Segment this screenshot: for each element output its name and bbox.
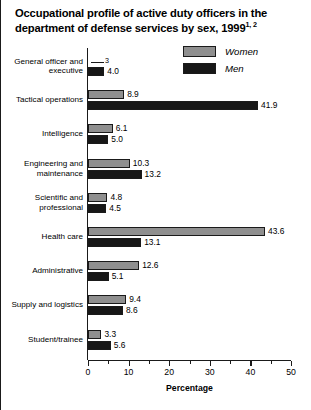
- bar-women: [88, 261, 139, 270]
- bar-men: [88, 306, 123, 315]
- x-axis-tick-label: 40: [246, 367, 256, 377]
- bar-value-label-women: 4.8: [110, 193, 122, 202]
- bar-value-label-men: 4.0: [107, 67, 119, 76]
- x-axis-tick-label: 50: [286, 367, 296, 377]
- x-axis-minor-tick: [230, 361, 231, 364]
- bar-value-label-women: 9.4: [129, 295, 141, 304]
- bar-value-label-men: 5.0: [111, 135, 123, 144]
- bar-value-label-men: 5.1: [112, 272, 124, 281]
- bar-women: [88, 295, 126, 304]
- bar-men: [88, 272, 109, 281]
- bar-value-label-women: 6.1: [116, 124, 128, 133]
- x-axis-minor-tick: [190, 361, 191, 364]
- chart-title-footnote-markers: 1, 2: [245, 20, 256, 29]
- bar-value-label-women: 43.6: [268, 227, 284, 236]
- bar-men: [88, 204, 106, 213]
- bar-value-label-men: 4.5: [109, 204, 121, 213]
- suppressed-footnote: 3: [105, 56, 109, 65]
- x-axis-tick-label: 30: [205, 367, 215, 377]
- bar-men: [88, 135, 108, 144]
- bar-women: [88, 90, 124, 99]
- bars-container: 34.08.941.96.15.010.313.24.84.543.613.11…: [88, 48, 291, 360]
- plot-area: General officer and executiveTactical op…: [1, 48, 311, 360]
- suppressed-dash-icon: [91, 62, 104, 63]
- bar-value-label-men: 13.1: [144, 238, 160, 247]
- bar-value-label-men: 5.6: [114, 341, 126, 350]
- category-label: Engineering and maintenance: [9, 159, 83, 178]
- chart-figure: Occupational profile of active duty offi…: [0, 0, 311, 410]
- category-label: Student/trainee: [9, 335, 83, 345]
- x-axis-minor-tick: [149, 361, 150, 364]
- bar-women: [88, 124, 113, 133]
- chart-title: Occupational profile of active duty offi…: [15, 6, 303, 35]
- bar-men: [88, 67, 104, 76]
- x-axis: Percentage 01020304050: [88, 360, 291, 404]
- category-axis-labels: General officer and executiveTactical op…: [9, 48, 83, 360]
- x-axis-tick: [291, 361, 292, 366]
- bar-value-label-women: 10.3: [133, 159, 149, 168]
- x-axis-minor-tick: [271, 361, 272, 364]
- bar-women: [88, 227, 265, 236]
- x-axis-tick: [129, 361, 130, 366]
- bar-value-label-men: 13.2: [145, 170, 161, 179]
- x-axis-tick-label: 0: [86, 367, 91, 377]
- x-axis-tick-label: 20: [164, 367, 174, 377]
- x-axis-tick: [169, 361, 170, 366]
- category-label: General officer and executive: [9, 57, 83, 76]
- x-axis-tick: [88, 361, 89, 366]
- category-label: Health care: [9, 232, 83, 242]
- x-axis-tick-label: 10: [124, 367, 134, 377]
- bar-women: [88, 193, 107, 202]
- category-label: Tactical operations: [9, 95, 83, 105]
- bar-value-label-men: 8.6: [126, 306, 138, 315]
- bar-women: [88, 159, 130, 168]
- bar-women: [88, 330, 101, 339]
- bar-men: [88, 341, 111, 350]
- category-label: Administrative: [9, 266, 83, 276]
- bar-value-label-women: 8.9: [127, 90, 139, 99]
- bar-value-label-men: 41.9: [261, 101, 277, 110]
- bar-men: [88, 170, 142, 179]
- x-axis-title: Percentage: [88, 383, 291, 393]
- x-axis-minor-tick: [108, 361, 109, 364]
- category-label: Scientific and professional: [9, 193, 83, 212]
- bar-value-label-women: 12.6: [142, 261, 158, 270]
- category-label: Supply and logistics: [9, 300, 83, 310]
- bar-men: [88, 238, 141, 247]
- chart-title-text: Occupational profile of active duty offi…: [15, 7, 267, 34]
- x-axis-tick: [250, 361, 251, 366]
- bar-men: [88, 101, 258, 110]
- bar-value-label-women: 3.3: [104, 330, 116, 339]
- x-axis-tick: [210, 361, 211, 366]
- category-label: Intelligence: [9, 129, 83, 139]
